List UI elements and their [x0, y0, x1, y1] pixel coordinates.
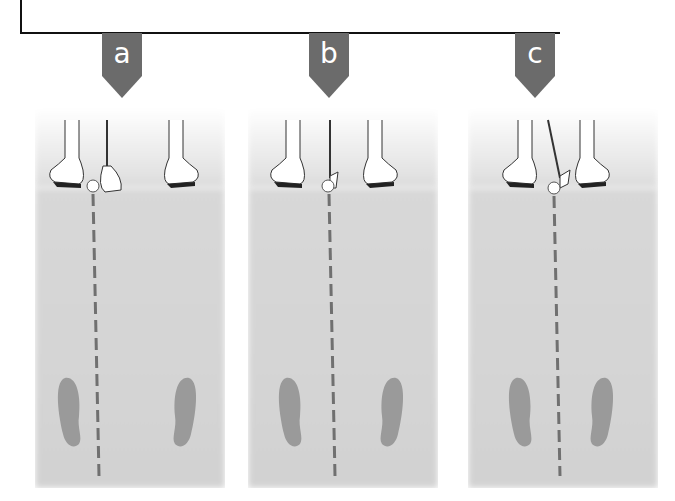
panel-c-illustration: [468, 108, 658, 488]
panel-label: a: [102, 37, 142, 70]
golf-ball-icon: [87, 180, 99, 192]
golf-ball-icon: [322, 180, 334, 192]
panel-marker-c: c: [515, 33, 555, 98]
panel-marker-a: a: [102, 33, 142, 98]
panel-label: c: [515, 37, 555, 70]
caption-frame: [20, 0, 560, 34]
panel-label: b: [309, 37, 349, 70]
panel-a-illustration: [35, 108, 225, 488]
panel-marker-b: b: [309, 33, 349, 98]
panel-b-illustration: [248, 108, 438, 488]
golf-ball-icon: [548, 182, 560, 194]
